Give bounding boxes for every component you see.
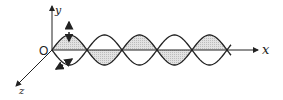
x-axis-label: x bbox=[262, 42, 270, 57]
y-axis-label: y bbox=[54, 4, 62, 17]
z-oscillation-arrow bbox=[56, 59, 72, 69]
z-axis-label: z bbox=[18, 85, 25, 96]
em-wave-diagram: O y z x bbox=[0, 0, 283, 100]
origin-label: O bbox=[39, 44, 48, 58]
